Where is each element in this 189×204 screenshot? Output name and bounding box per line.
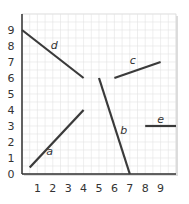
segment-label-d: d: [51, 39, 59, 52]
segment-label-b: b: [120, 124, 127, 137]
y-tick-label: 0: [8, 168, 15, 181]
y-tick-label: 6: [8, 72, 15, 85]
y-tick-label: 7: [8, 56, 15, 69]
x-tick-label: 5: [96, 182, 103, 195]
x-tick-label: 3: [65, 182, 72, 195]
segment-label-e: e: [157, 113, 164, 126]
x-tick-label: 9: [157, 182, 164, 195]
y-tick-label: 8: [8, 40, 15, 53]
x-tick-label: 1: [34, 182, 41, 195]
x-tick-label: 7: [126, 182, 133, 195]
x-tick-label: 6: [111, 182, 118, 195]
y-tick-label: 4: [8, 104, 15, 117]
segment-label-c: c: [130, 54, 136, 67]
segment-label-a: a: [46, 145, 53, 158]
y-tick-label: 3: [8, 120, 15, 133]
y-tick-label: 1: [8, 152, 15, 165]
y-tick-label: 9: [8, 24, 15, 37]
x-tick-label: 2: [49, 182, 56, 195]
line-segments-chart: 1234567890123456789abcde: [0, 0, 189, 204]
y-tick-label: 2: [8, 136, 15, 149]
y-tick-label: 5: [8, 88, 15, 101]
x-tick-label: 4: [80, 182, 87, 195]
x-tick-label: 8: [142, 182, 149, 195]
